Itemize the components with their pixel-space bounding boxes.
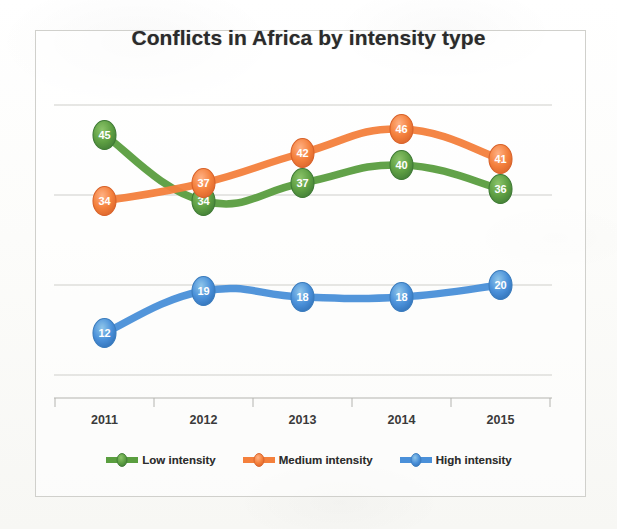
data-point-label: 18 (395, 291, 407, 303)
data-point: 34 (93, 187, 116, 216)
line-chart-plot: 453437403634374246411219181820 201120122… (0, 0, 617, 529)
data-point-label: 12 (98, 327, 110, 339)
data-point-label: 46 (395, 123, 407, 135)
legend-label: Low intensity (142, 454, 215, 466)
data-point-label: 37 (296, 177, 308, 189)
legend-swatch-icon (105, 452, 139, 468)
data-point-label: 40 (395, 159, 407, 171)
data-point-label: 34 (98, 195, 111, 207)
markers-medium-intensity: 3437424641 (93, 115, 512, 216)
data-point-label: 20 (494, 279, 506, 291)
data-point: 45 (93, 121, 116, 150)
legend-label: Medium intensity (279, 454, 373, 466)
data-series-group: 453437403634374246411219181820 (93, 115, 512, 348)
data-point-label: 45 (98, 129, 110, 141)
x-tick-label-2012: 2012 (190, 413, 218, 427)
data-point: 36 (489, 175, 512, 204)
legend-item-medium-intensity[interactable]: Medium intensity (242, 452, 373, 468)
chart-legend: Low intensityMedium intensityHigh intens… (0, 452, 617, 468)
data-point: 37 (192, 169, 215, 198)
data-point-label: 41 (494, 153, 506, 165)
data-point-label: 37 (197, 177, 209, 189)
legend-item-high-intensity[interactable]: High intensity (399, 452, 512, 468)
legend-label: High intensity (436, 454, 512, 466)
data-point-label: 36 (494, 183, 506, 195)
data-point: 18 (390, 283, 413, 312)
legend-swatch-icon (242, 452, 276, 468)
data-point: 18 (291, 283, 314, 312)
legend-item-low-intensity[interactable]: Low intensity (105, 452, 215, 468)
data-point-label: 42 (296, 147, 308, 159)
data-point: 46 (390, 115, 413, 144)
data-point-label: 18 (296, 291, 308, 303)
data-point: 42 (291, 139, 314, 168)
legend-swatch-icon (399, 452, 433, 468)
data-point: 19 (192, 277, 215, 306)
x-tick-label-2014: 2014 (388, 413, 416, 427)
x-tick-label-2015: 2015 (487, 413, 515, 427)
x-tick-label-2013: 2013 (289, 413, 317, 427)
data-point: 37 (291, 169, 314, 198)
data-point: 41 (489, 145, 512, 174)
x-tick-label-2011: 2011 (91, 413, 118, 427)
data-point: 40 (390, 151, 413, 180)
x-axis-tick-labels: 20112012201320142015 (91, 413, 515, 427)
data-point: 20 (489, 271, 512, 300)
data-point: 12 (93, 319, 116, 348)
data-point-label: 19 (197, 285, 209, 297)
x-axis (54, 398, 552, 407)
